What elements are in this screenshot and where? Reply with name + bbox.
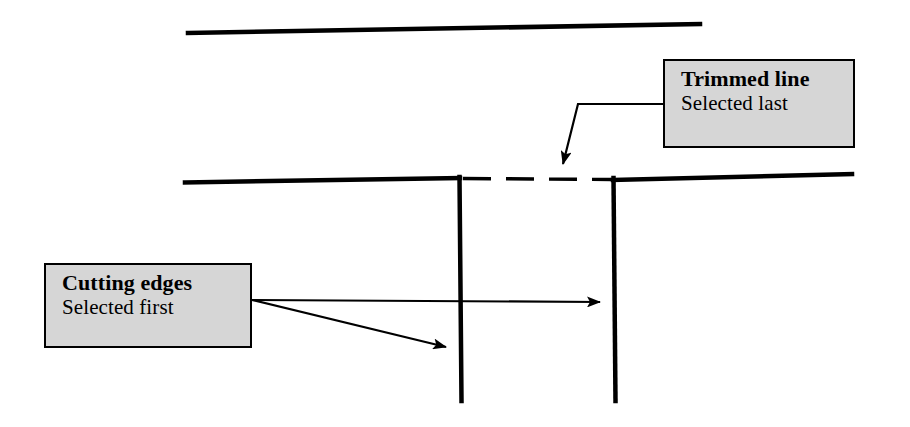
- cutting-edge-leader-right: [252, 300, 600, 302]
- diagram-canvas: Trimmed line Selected last Cutting edges…: [0, 0, 910, 427]
- callout-trimmed-line: Trimmed line Selected last: [663, 59, 855, 148]
- callout-cutting-edges-title: Cutting edges: [62, 271, 240, 295]
- top-horizontal-line: [188, 24, 700, 33]
- callout-trimmed-line-title: Trimmed line: [681, 67, 843, 91]
- left-vertical-cutting-edge: [460, 177, 462, 401]
- trimmed-line-leader: [563, 104, 664, 164]
- callout-cutting-edges: Cutting edges Selected first: [44, 263, 252, 348]
- left-horizontal-line: [185, 178, 460, 183]
- right-vertical-cutting-edge: [614, 178, 616, 401]
- callout-trimmed-line-subtitle: Selected last: [681, 92, 843, 115]
- right-horizontal-line: [613, 174, 852, 180]
- callout-cutting-edges-subtitle: Selected first: [62, 296, 240, 319]
- trimmed-dashed-segment: [463, 179, 611, 180]
- cutting-edge-leader-left: [252, 300, 446, 347]
